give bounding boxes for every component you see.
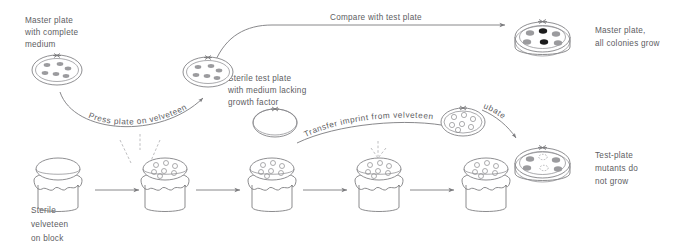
velveteen-block-imprinted-1 <box>141 158 189 212</box>
label-master-plate-complete-medium: Master plate with complete medium <box>24 16 79 49</box>
label-line: velveteen <box>31 220 68 229</box>
velveteen-block-imprinted-3 <box>355 158 403 212</box>
velveteen-block-imprinted-4 <box>462 158 510 212</box>
petri-dish-test-plate-result <box>515 146 570 183</box>
plate-sterile-test-empty <box>253 107 297 137</box>
arrow-compare-with-test-plate <box>215 25 505 62</box>
plate-master-after-pressing <box>183 56 233 88</box>
velveteen-block-imprinted-2 <box>248 158 296 212</box>
petri-dish-master-plate-result <box>515 20 570 57</box>
label-line: Test-plate <box>595 151 633 160</box>
label-press-plate-on-velveteen: Press plate on velveteen <box>87 102 188 126</box>
label-line: Master plate <box>25 16 73 25</box>
plate-master-complete-medium <box>32 54 82 86</box>
replica-plating-diagram: Master plate with complete medium Steril… <box>0 0 691 252</box>
plate-test-with-imprint <box>441 106 485 136</box>
label-master-plate-result: Master plate, all colonies grow <box>595 26 660 48</box>
label-line: with medium lacking <box>227 86 307 95</box>
label-line: Master plate, <box>595 26 646 35</box>
label-line: not grow <box>595 177 628 186</box>
velveteen-block-sterile <box>34 158 82 212</box>
label-press-text: Press plate on velveteen <box>87 102 188 126</box>
label-line: mutants do <box>595 164 638 173</box>
label-compare-with-test-plate: Compare with test plate <box>330 13 422 22</box>
label-line: on block <box>31 234 64 243</box>
label-line: Sterile test plate <box>228 74 291 83</box>
label-test-plate-result: Test-plate mutants do not grow <box>595 151 638 186</box>
label-line: all colonies grow <box>595 39 660 48</box>
dashed-press-guide <box>120 134 160 163</box>
label-line: with complete <box>24 28 79 37</box>
dashed-transfer-guide <box>371 141 386 158</box>
label-line: growth factor <box>228 98 279 107</box>
label-sterile-test-plate: Sterile test plate with medium lacking g… <box>227 74 307 107</box>
label-line: medium <box>25 40 56 49</box>
